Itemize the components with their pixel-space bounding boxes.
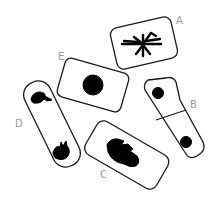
cell-e-nucleus-icon — [83, 75, 103, 95]
cell-b-nucleus-bottom-icon — [181, 137, 192, 148]
cell-c: C — [82, 118, 172, 192]
cell-c-label: C — [100, 169, 107, 180]
mitosis-diagram: A E B D C — [0, 0, 212, 200]
cell-b: B — [144, 78, 204, 158]
cell-d-label: D — [15, 118, 23, 129]
cell-e-label: E — [58, 51, 64, 62]
cell-a: A — [109, 15, 183, 70]
cell-b-nucleus-top-icon — [153, 88, 164, 99]
cell-a-label: A — [176, 15, 183, 26]
cell-b-label: B — [190, 99, 197, 110]
